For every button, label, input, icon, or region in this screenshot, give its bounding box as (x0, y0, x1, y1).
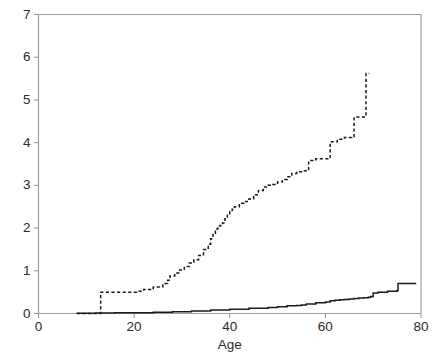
x-tick-label: 40 (222, 319, 237, 334)
chart-container: 01234567 020406080 Age (0, 0, 440, 358)
y-tick-label: 3 (23, 177, 31, 192)
chart-svg: 01234567 020406080 Age (0, 0, 440, 358)
y-tick-label: 1 (23, 263, 31, 278)
x-tick-label: 60 (318, 319, 333, 334)
x-axis-title: Age (218, 337, 242, 352)
y-tick-label: 0 (23, 306, 31, 321)
y-tick-label: 7 (23, 7, 31, 22)
y-tick-label: 4 (23, 135, 31, 150)
x-tick-label: 20 (127, 319, 142, 334)
x-tick-label: 80 (413, 319, 428, 334)
y-tick-label: 6 (23, 49, 31, 64)
x-tick-label: 0 (35, 319, 43, 334)
y-tick-label: 2 (23, 220, 31, 235)
y-tick-label: 5 (23, 92, 31, 107)
chart-background (0, 0, 440, 358)
